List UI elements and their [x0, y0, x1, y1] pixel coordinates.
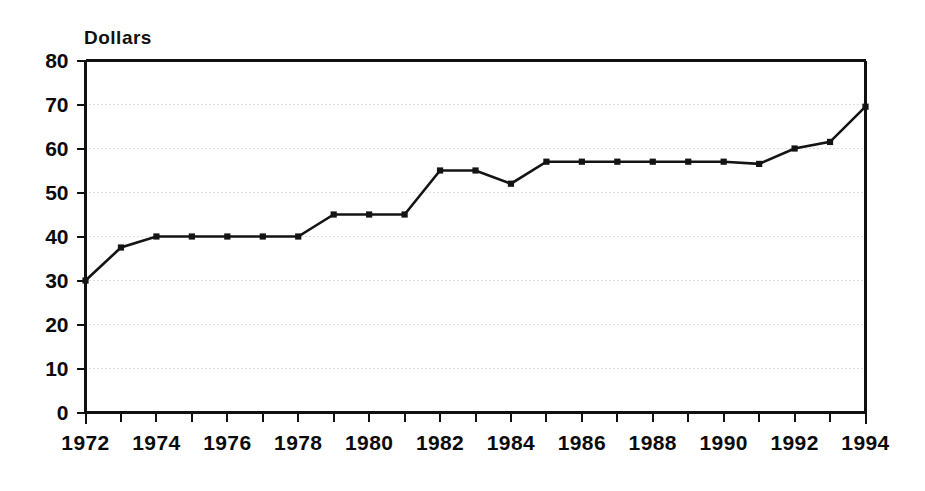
x-tick-label-1992: 1992	[770, 431, 818, 454]
y-tick-label-30: 30	[45, 269, 68, 292]
y-tick-label-40: 40	[45, 225, 68, 248]
data-point-1993	[827, 139, 833, 145]
data-point-1975	[189, 233, 195, 239]
y-tick-label-20: 20	[45, 313, 68, 336]
y-tick-label-60: 60	[45, 137, 68, 160]
data-point-1974	[153, 233, 159, 239]
x-tick-label-1994: 1994	[841, 431, 889, 454]
line-chart: 01020304050607080 1972197419761978198019…	[0, 0, 925, 491]
chart-background	[0, 0, 925, 491]
data-point-1987	[614, 159, 620, 165]
x-tick-label-1984: 1984	[487, 431, 535, 454]
data-point-1985	[543, 159, 549, 165]
data-point-1973	[118, 244, 124, 250]
data-point-1990	[721, 159, 727, 165]
data-point-1986	[579, 159, 585, 165]
y-tick-label-10: 10	[45, 357, 68, 380]
data-point-1978	[295, 233, 301, 239]
y-axis-tick-labels: 01020304050607080	[45, 49, 68, 424]
x-tick-label-1972: 1972	[61, 431, 109, 454]
data-point-1977	[260, 233, 266, 239]
data-point-1979	[331, 211, 337, 217]
data-point-1994	[862, 104, 868, 110]
y-tick-label-0: 0	[57, 401, 69, 424]
data-point-1984	[508, 181, 514, 187]
y-tick-label-80: 80	[45, 49, 68, 72]
x-tick-label-1990: 1990	[700, 431, 748, 454]
y-tick-label-50: 50	[45, 181, 68, 204]
data-point-1976	[224, 233, 230, 239]
x-tick-label-1988: 1988	[629, 431, 677, 454]
x-tick-label-1986: 1986	[558, 431, 606, 454]
chart-figure: 01020304050607080 1972197419761978198019…	[0, 0, 925, 491]
y-tick-label-70: 70	[45, 93, 68, 116]
data-point-1988	[650, 159, 656, 165]
x-tick-label-1982: 1982	[416, 431, 464, 454]
data-point-1989	[685, 159, 691, 165]
data-point-1972	[82, 277, 88, 283]
data-point-1992	[791, 145, 797, 151]
data-point-1983	[472, 167, 478, 173]
data-point-1980	[366, 211, 372, 217]
x-tick-label-1980: 1980	[345, 431, 393, 454]
x-tick-label-1976: 1976	[203, 431, 251, 454]
data-point-1991	[756, 161, 762, 167]
x-tick-label-1978: 1978	[274, 431, 322, 454]
data-point-1982	[437, 167, 443, 173]
data-point-1981	[401, 211, 407, 217]
x-tick-label-1974: 1974	[132, 431, 180, 454]
y-axis-title: Dollars	[84, 27, 152, 48]
